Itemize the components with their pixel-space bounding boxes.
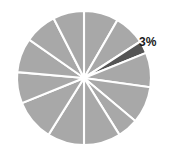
pie-slices-group	[17, 11, 151, 145]
pie-chart-figure: 3%	[0, 0, 176, 151]
pie-slice-data-label: 3%	[139, 36, 156, 48]
pie-chart-svg	[0, 0, 176, 151]
